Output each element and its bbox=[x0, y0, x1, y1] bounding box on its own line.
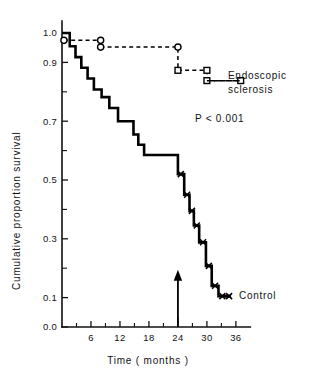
x-tick-label: 24 bbox=[172, 332, 183, 343]
x-axis-title: Time ( months ) bbox=[107, 355, 189, 366]
y-tick-label: 1.0 bbox=[43, 27, 57, 38]
y-tick-label: 0.0 bbox=[43, 321, 57, 332]
y-tick-label: 0.5 bbox=[43, 174, 57, 185]
control-censor-marks bbox=[178, 171, 232, 299]
y-tick-label: 0.9 bbox=[43, 57, 57, 68]
open-circle-marker bbox=[98, 44, 104, 50]
legend-group: Endoscopic sclerosis Control bbox=[207, 70, 287, 301]
y-axis-tick-labels: 0.00.10.30.50.70.91.0 bbox=[43, 27, 57, 332]
open-square-marker bbox=[204, 67, 210, 73]
kaplan-meier-plot: 0.00.10.30.50.70.91.0 61218243036 Cumula… bbox=[0, 0, 310, 376]
x-tick-label: 36 bbox=[230, 332, 241, 343]
y-axis-title: Cumulative proportion survival bbox=[11, 131, 22, 290]
legend-label-control: Control bbox=[239, 290, 276, 301]
x-tick-label: 12 bbox=[114, 332, 125, 343]
x-tick-label: 6 bbox=[88, 332, 94, 343]
y-tick-label: 0.1 bbox=[43, 292, 57, 303]
legend-label-endoscopic-line1: Endoscopic bbox=[228, 70, 287, 81]
x-axis-ticks bbox=[76, 317, 235, 327]
open-circle-marker bbox=[175, 44, 181, 50]
open-square-marker bbox=[175, 67, 181, 73]
legend-label-endoscopic-line2: sclerosis bbox=[228, 84, 273, 95]
survival-chart-figure: 0.00.10.30.50.70.91.0 61218243036 Cumula… bbox=[0, 0, 310, 376]
x-tick-label: 18 bbox=[143, 332, 154, 343]
endoscopic-sclerosis-curve bbox=[64, 40, 241, 80]
open-circle-marker bbox=[98, 37, 104, 43]
y-tick-label: 0.7 bbox=[43, 116, 57, 127]
x-axis-tick-labels: 61218243036 bbox=[88, 332, 241, 343]
y-tick-label: 0.3 bbox=[43, 233, 57, 244]
open-circle-marker bbox=[61, 37, 67, 43]
y-axis-ticks bbox=[62, 33, 68, 327]
followup-arrow-icon bbox=[174, 270, 182, 327]
x-tick-label: 30 bbox=[201, 332, 212, 343]
p-value-annotation: P < 0.001 bbox=[195, 113, 244, 124]
